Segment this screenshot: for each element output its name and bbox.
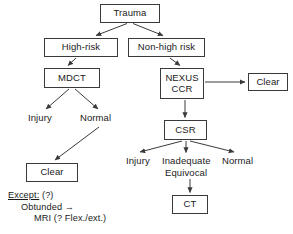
except-note-line1-underlined: Except: [8,190,39,200]
except-note: Except: (?) Obtunded → MRI (? Flex./ext.… [8,190,106,225]
node-non-high-risk[interactable]: Non-high risk [128,38,205,57]
node-clear-left-label: Clear [40,167,63,178]
edge-trauma-to-high-risk [96,24,127,36]
label-csr-injury: Injury [126,156,150,167]
node-trauma[interactable]: Trauma [100,4,160,23]
label-mdct-normal: Normal [80,113,111,124]
node-ct-label: CT [184,199,197,210]
node-csr-label: CSR [175,125,195,136]
node-high-risk[interactable]: High-risk [44,38,118,57]
edge-mdct-to-injury [46,89,69,109]
label-csr-equivocal: Equivocal [165,168,207,179]
edge-trauma-to-non-high-risk [133,24,163,36]
node-clear-right-label: Clear [256,77,279,88]
except-note-line3: MRI (? Flex./ext.) [8,213,106,225]
node-mdct-label: MDCT [58,73,86,84]
label-mdct-injury: Injury [28,113,52,124]
node-nexus-ccr-label: NEXUS [165,73,198,84]
node-non-high-risk-label: Non-high risk [138,42,195,53]
node-clear-left[interactable]: Clear [26,163,78,182]
edge-csr-to-injury [140,141,182,152]
except-note-line1-rest: (?) [39,190,53,200]
node-nexus-ccr-label-line2: CCR [172,84,193,95]
flowchart-canvas: Trauma High-risk Non-high risk MDCT NEXU… [0,0,293,234]
node-mdct[interactable]: MDCT [44,68,100,88]
edge-csr-to-normal [190,141,234,152]
node-high-risk-label: High-risk [62,42,100,53]
edge-high-risk-to-mdct [68,58,76,66]
label-csr-inadequate: Inadequate [162,156,211,167]
node-csr[interactable]: CSR [164,120,207,140]
node-trauma-label: Trauma [114,8,147,19]
edge-mdct-to-normal [75,89,98,109]
node-clear-right[interactable]: Clear [248,73,288,91]
label-csr-normal: Normal [222,156,253,167]
edge-normal-to-clear-left [55,127,99,160]
edge-non-high-risk-to-nexus [170,58,180,66]
node-nexus-ccr[interactable]: NEXUS CCR [160,68,204,99]
except-note-line2: Obtunded → [8,202,106,214]
node-ct[interactable]: CT [172,195,208,214]
